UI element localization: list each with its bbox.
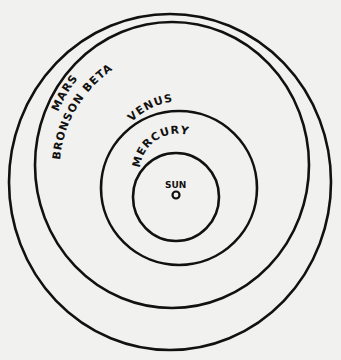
label-mercury: MERCURY bbox=[130, 123, 191, 168]
sun-icon bbox=[173, 192, 180, 199]
label-venus: VENUS bbox=[125, 91, 174, 124]
orbit-mercury bbox=[133, 153, 219, 241]
solar-system-diagram: MARS BRONSON BETA VENUS MERCURY SUN bbox=[0, 0, 341, 360]
label-sun: SUN bbox=[165, 180, 186, 190]
